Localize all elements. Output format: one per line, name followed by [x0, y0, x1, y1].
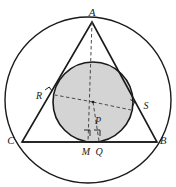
label-B: B: [160, 134, 167, 146]
label-C: C: [7, 134, 15, 146]
geometry-canvas: ABCRSPMQ: [0, 0, 176, 187]
label-P: P: [94, 115, 101, 126]
point-P-dot: [92, 101, 95, 104]
label-Q: Q: [95, 146, 103, 157]
label-S: S: [144, 100, 149, 111]
point-markers: [92, 101, 95, 104]
label-R: R: [35, 90, 42, 101]
label-M: M: [81, 146, 91, 157]
geometry-figure: ABCRSPMQ: [0, 0, 176, 187]
label-A: A: [88, 6, 96, 18]
